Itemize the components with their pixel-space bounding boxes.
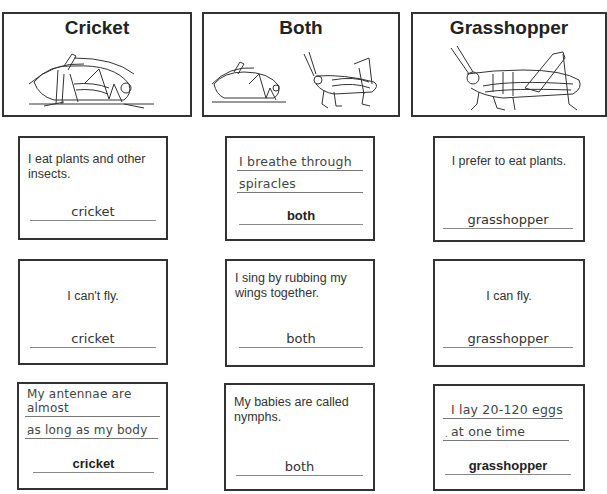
answer-text: grasshopper: [443, 331, 573, 346]
answer-text: grasshopper: [445, 458, 571, 473]
header-both: Both: [202, 12, 400, 117]
answer-text: both: [236, 459, 363, 474]
card-grasshopper-row3: I lay 20-120 eggs at one time . grasshop…: [433, 384, 585, 491]
answer-line[interactable]: cricket: [30, 329, 156, 348]
card-grasshopper-row1: I prefer to eat plants. grasshopper: [433, 136, 585, 242]
card-both-row1: I breathe through spiracles . both: [225, 136, 375, 241]
card-cricket-row2: I can't fly. cricket: [18, 259, 168, 365]
card-both-row3: My babies are called nymphs. both: [224, 383, 375, 491]
statement-text: I lay 20-120 eggs: [451, 402, 563, 417]
statement-text: I can fly.: [443, 289, 575, 304]
statement-text: I can't fly.: [28, 289, 158, 304]
answer-text: both: [239, 208, 363, 223]
statement-line-2: at one time .: [443, 420, 569, 441]
statement-text: I breathe through: [239, 154, 352, 169]
answer-text: cricket: [30, 204, 156, 219]
answer-text: cricket: [30, 331, 156, 346]
card-grasshopper-row2: I can fly. grasshopper: [433, 259, 585, 367]
statement-text: My babies are called nymphs.: [234, 395, 353, 425]
statement-line-2: as long as my body .: [25, 418, 158, 439]
header-grasshopper: Grasshopper: [411, 12, 607, 117]
statement-line-1: I breathe through: [237, 150, 363, 171]
statement-text: I sing by rubbing my wings together.: [235, 271, 353, 301]
card-cricket-row3: My antennae are almost as long as my bod…: [17, 382, 168, 490]
grasshopper-illustration-icon: [413, 44, 605, 111]
card-both-row2: I sing by rubbing my wings together. bot…: [225, 259, 375, 367]
answer-line[interactable]: grasshopper: [443, 329, 573, 348]
statement-text: I eat plants and other insects.: [28, 152, 158, 182]
statement-text: My antennae are almost: [27, 387, 160, 415]
answer-text: cricket: [33, 456, 154, 471]
answer-line[interactable]: both: [236, 457, 363, 476]
answer-line[interactable]: grasshopper: [443, 210, 573, 229]
statement-line-1: I lay 20-120 eggs: [443, 398, 563, 419]
answer-text: both: [239, 331, 363, 346]
cricket-and-grasshopper-icon: [204, 44, 398, 111]
cricket-illustration-icon: [4, 44, 190, 111]
statement-line-2: spiracles .: [237, 172, 363, 193]
header-title-both: Both: [204, 17, 398, 39]
answer-text: grasshopper: [443, 212, 573, 227]
answer-line[interactable]: cricket: [30, 202, 156, 221]
answer-line[interactable]: both: [239, 206, 363, 225]
statement-line-1: My antennae are almost: [25, 396, 160, 417]
header-title-cricket: Cricket: [4, 17, 190, 39]
answer-line[interactable]: grasshopper: [445, 456, 571, 475]
header-title-grasshopper: Grasshopper: [413, 17, 605, 39]
statement-text: I prefer to eat plants.: [443, 154, 575, 169]
card-cricket-row1: I eat plants and other insects. cricket: [18, 136, 168, 240]
answer-line[interactable]: cricket: [33, 454, 154, 473]
answer-line[interactable]: both: [239, 329, 363, 348]
header-cricket: Cricket: [2, 12, 192, 117]
